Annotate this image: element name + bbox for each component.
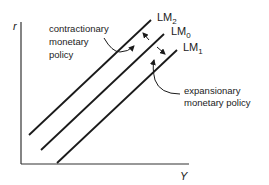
lm0-label: LM0: [171, 25, 191, 40]
lm1-curve: [57, 50, 177, 163]
x-axis-label: Y: [180, 170, 188, 182]
lm2-label: LM2: [157, 11, 177, 26]
y-axis-label: r: [13, 20, 18, 32]
lm1-label: LM1: [183, 41, 203, 56]
expansionary-pointer-arrow: [153, 60, 180, 94]
lm-shift-diagram: r Y LM2 LM0 LM1 contractionary monetary …: [0, 0, 269, 185]
shift-left-arrow: [143, 33, 149, 40]
contractionary-label: contractionary monetary policy: [49, 23, 111, 60]
shift-right-arrow: [157, 47, 165, 54]
expansionary-label: expansionary monetary policy: [184, 85, 251, 108]
